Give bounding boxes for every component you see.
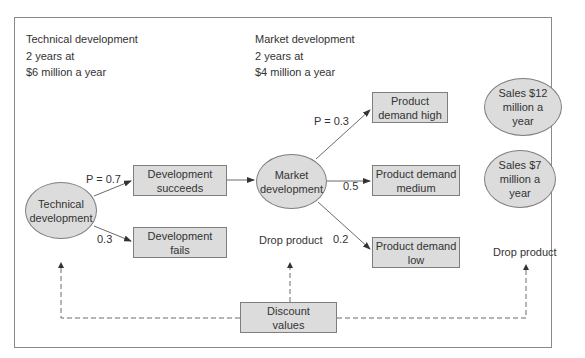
note-line: Technical development xyxy=(26,31,138,48)
note-line: Market development xyxy=(255,31,355,48)
probability-medium: 0.5 xyxy=(343,180,358,192)
node-label: Product demand high xyxy=(378,94,442,122)
node-sales-7-million: Sales $7 million a year xyxy=(484,150,556,208)
drop-product-right: Drop product xyxy=(493,246,557,258)
node-product-demand-low: Product demand low xyxy=(372,237,460,268)
drop-product-middle: Drop product xyxy=(259,234,323,246)
node-label: Development succeeds xyxy=(148,167,213,195)
probability-fail: 0.3 xyxy=(97,233,112,245)
node-development-fails: Development fails xyxy=(133,227,227,258)
node-development-succeeds: Development succeeds xyxy=(133,165,227,196)
node-product-demand-high: Product demand high xyxy=(372,92,448,123)
node-label: Development fails xyxy=(148,229,213,257)
node-label: Discount values xyxy=(267,304,310,332)
node-technical-development: Technical development xyxy=(25,182,97,239)
note-line: 2 years at xyxy=(26,48,138,65)
note-line: 2 years at xyxy=(255,48,355,65)
node-discount-values: Discount values xyxy=(240,302,337,333)
node-sales-12-million: Sales $12 million a year xyxy=(484,78,562,136)
node-label: Product demand medium xyxy=(376,167,457,195)
node-label: Technical development xyxy=(30,197,93,225)
probability-high: P = 0.3 xyxy=(314,115,349,127)
technical-development-note: Technical development 2 years at $6 mill… xyxy=(26,31,138,81)
note-line: $6 million a year xyxy=(26,64,138,81)
note-line: $4 million a year xyxy=(255,64,355,81)
probability-succeed: P = 0.7 xyxy=(86,173,121,185)
node-label: Product demand low xyxy=(376,239,457,267)
node-label: Market development xyxy=(260,168,323,196)
node-product-demand-medium: Product demand medium xyxy=(372,165,460,196)
probability-low: 0.2 xyxy=(333,233,348,245)
market-development-note: Market development 2 years at $4 million… xyxy=(255,31,355,81)
node-market-development: Market development xyxy=(256,154,327,209)
node-label: Sales $7 million a year xyxy=(499,158,542,200)
node-label: Sales $12 million a year xyxy=(499,86,548,128)
